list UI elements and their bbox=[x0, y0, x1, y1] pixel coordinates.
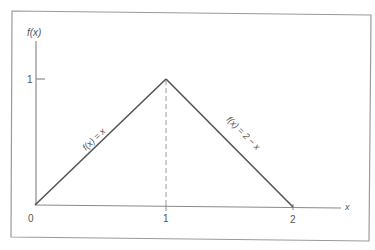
annotation-f-equals-2-minus-x: f(x) = 2 − x bbox=[225, 114, 263, 152]
x-tick-label-0: 0 bbox=[28, 213, 34, 224]
line-f-equals-2-minus-x bbox=[166, 79, 293, 207]
chart-figure: f(x) 1 0 1 2 x f(x) = x f(x) = 2 − x bbox=[0, 0, 375, 250]
x-axis bbox=[35, 205, 341, 208]
line-f-equals-x bbox=[35, 79, 166, 205]
y-axis-label: f(x) bbox=[27, 27, 41, 38]
x-tick-label-1: 1 bbox=[163, 213, 169, 224]
x-axis-label: x bbox=[344, 202, 350, 212]
x-tick-label-2: 2 bbox=[290, 214, 296, 225]
y-tick-label-1: 1 bbox=[27, 74, 33, 85]
